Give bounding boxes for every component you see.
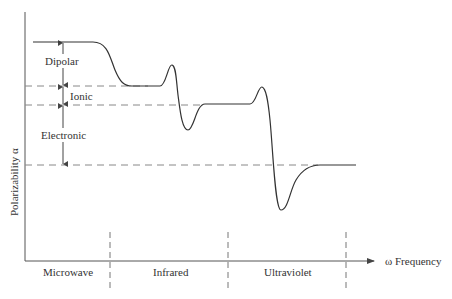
region-dividers [110, 232, 346, 288]
polarizability-diagram: Dipolar Ionic Electronic Polarizability … [0, 0, 452, 299]
region-infrared: Infrared [153, 266, 189, 278]
y-axis-label: Polarizability α [8, 148, 20, 216]
region-ultraviolet: Ultraviolet [264, 266, 312, 278]
label-electronic: Electronic [41, 129, 86, 141]
x-axis-label: ω Frequency [385, 255, 442, 267]
region-microwave: Microwave [43, 266, 93, 278]
label-ionic: Ionic [70, 90, 93, 102]
label-dipolar: Dipolar [45, 55, 79, 67]
